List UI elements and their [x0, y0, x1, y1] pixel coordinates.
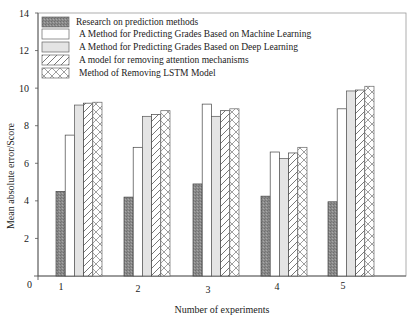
bar: [337, 109, 346, 276]
x-tick-label: 1: [59, 281, 64, 292]
bar: [328, 202, 337, 276]
x-tick-label: 5: [341, 280, 346, 291]
bar: [74, 105, 83, 276]
bar: [211, 116, 220, 276]
bar: [84, 103, 93, 276]
bar: [65, 135, 74, 276]
bar: [346, 91, 355, 276]
legend-swatch: [42, 42, 69, 52]
bar: [142, 116, 151, 276]
bar: [261, 196, 270, 276]
legend-item: A Method for Predicting Grades Based on …: [42, 29, 311, 39]
y-tick-label: 14: [19, 8, 29, 19]
legend-swatch: [42, 17, 69, 27]
legend-item: Method of Removing LSTM Model: [42, 68, 216, 78]
legend-label: A Method for Predicting Grades Based on …: [79, 42, 298, 52]
bar: [193, 184, 202, 276]
bar: [221, 111, 230, 276]
bar: [289, 153, 298, 276]
legend-swatch: [42, 29, 69, 39]
y-tick-label: 6: [24, 158, 29, 169]
x-tick-label: 3: [206, 284, 211, 295]
bar: [279, 159, 288, 276]
legend-swatch: [42, 55, 69, 65]
legend-label: A model for removing attention mechanism…: [79, 55, 249, 65]
x-axis-ticks: 12345: [59, 280, 346, 295]
y-tick-label: 2: [24, 233, 29, 244]
x-tick-label: 2: [136, 283, 141, 294]
bar: [93, 102, 102, 276]
bar: [298, 147, 307, 276]
bar: [202, 104, 211, 276]
bar-chart: 02468101214 12345 Research on prediction…: [0, 0, 416, 324]
legend-label: Research on prediction methods: [76, 17, 198, 27]
y-tick-label: 0: [27, 279, 32, 290]
y-axis-title: Mean absolute error/Score: [5, 122, 16, 229]
legend-label: A Method for Predicting Grades Based on …: [79, 29, 311, 39]
bar: [356, 90, 365, 276]
bar: [230, 109, 239, 276]
bar: [56, 191, 65, 276]
bar: [133, 147, 142, 276]
y-tick-label: 10: [19, 83, 29, 94]
legend-label: Method of Removing LSTM Model: [79, 68, 216, 78]
y-axis-ticks: 02468101214: [19, 8, 38, 291]
bar: [161, 111, 170, 276]
bar: [365, 86, 374, 276]
x-tick-label: 4: [275, 281, 280, 292]
y-tick-label: 4: [24, 195, 29, 206]
x-axis-title: Number of experiments: [175, 304, 270, 315]
bar: [270, 152, 279, 276]
y-tick-label: 8: [24, 120, 29, 131]
legend-item: Research on prediction methods: [42, 17, 198, 27]
bar: [152, 114, 161, 276]
y-tick-label: 12: [19, 45, 29, 56]
legend-item: A Method for Predicting Grades Based on …: [42, 42, 298, 52]
legend-swatch: [42, 68, 69, 78]
bar: [124, 197, 133, 276]
